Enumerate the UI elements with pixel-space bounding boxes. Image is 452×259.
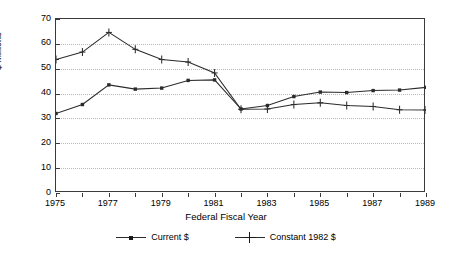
series-2 bbox=[56, 28, 426, 114]
x-tick-mark bbox=[320, 193, 321, 197]
y-tick-label: 40 bbox=[29, 88, 51, 97]
data-point-marker bbox=[319, 90, 322, 93]
y-tick-label: 0 bbox=[29, 188, 51, 197]
x-tick-mark bbox=[56, 193, 57, 197]
series-line bbox=[56, 32, 426, 110]
x-tick-label: 1975 bbox=[40, 199, 70, 208]
y-tick-label: 20 bbox=[29, 138, 51, 147]
data-point-marker bbox=[371, 89, 374, 92]
data-point-marker bbox=[107, 83, 110, 86]
chart-figure: $ Millions Federal Fiscal Year Current $… bbox=[0, 0, 452, 259]
x-tick-label: 1985 bbox=[304, 199, 334, 208]
data-point-marker bbox=[345, 91, 348, 94]
legend-label: Constant 1982 $ bbox=[270, 233, 336, 242]
data-point-marker bbox=[81, 103, 84, 106]
x-tick-mark bbox=[373, 193, 374, 197]
x-tick-label: 1979 bbox=[146, 199, 176, 208]
x-tick-label: 1977 bbox=[93, 199, 123, 208]
y-tick-label: 70 bbox=[29, 14, 51, 23]
legend-item-1[interactable]: Current $ bbox=[116, 232, 189, 243]
x-tick-label: 1989 bbox=[410, 199, 440, 208]
data-point-marker bbox=[56, 112, 58, 115]
data-point-marker bbox=[424, 86, 426, 89]
x-tick-mark bbox=[162, 193, 163, 197]
x-axis-title: Federal Fiscal Year bbox=[0, 211, 452, 222]
x-tick-mark bbox=[215, 193, 216, 197]
legend-label: Current $ bbox=[151, 233, 189, 242]
line-with-plus-marker-icon bbox=[235, 232, 265, 243]
plot-area bbox=[55, 18, 425, 192]
x-tick-mark bbox=[82, 193, 83, 197]
data-point-marker bbox=[398, 88, 401, 91]
x-tick-mark bbox=[188, 193, 189, 197]
legend-item-2[interactable]: Constant 1982 $ bbox=[235, 232, 336, 243]
data-point-marker bbox=[292, 95, 295, 98]
x-tick-mark bbox=[294, 193, 295, 197]
x-tick-mark bbox=[426, 193, 427, 197]
x-tick-label: 1981 bbox=[199, 199, 229, 208]
chart-legend: Current $Constant 1982 $ bbox=[0, 232, 452, 243]
x-tick-mark bbox=[400, 193, 401, 197]
x-tick-mark bbox=[241, 193, 242, 197]
x-tick-mark bbox=[135, 193, 136, 197]
x-tick-mark bbox=[109, 193, 110, 197]
x-tick-label: 1987 bbox=[357, 199, 387, 208]
y-tick-label: 30 bbox=[29, 113, 51, 122]
x-tick-label: 1983 bbox=[251, 199, 281, 208]
y-tick-label: 10 bbox=[29, 163, 51, 172]
data-point-marker bbox=[213, 78, 216, 81]
y-tick-label: 50 bbox=[29, 63, 51, 72]
y-tick-label: 60 bbox=[29, 38, 51, 47]
y-axis-title: $ Millions bbox=[0, 0, 3, 70]
data-point-marker bbox=[186, 79, 189, 82]
data-point-marker bbox=[160, 86, 163, 89]
line-with-square-marker-icon bbox=[116, 232, 146, 243]
x-tick-mark bbox=[267, 193, 268, 197]
data-series-layer bbox=[56, 19, 426, 193]
x-tick-mark bbox=[347, 193, 348, 197]
data-point-marker bbox=[134, 87, 137, 90]
